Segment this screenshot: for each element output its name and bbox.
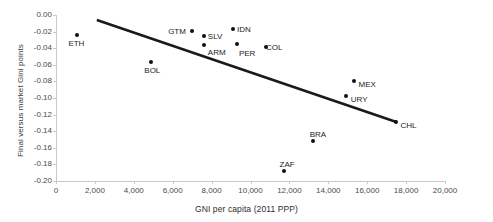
y-tick-label: -0.18 — [16, 160, 52, 168]
data-point-label: PER — [239, 49, 255, 58]
data-point-label: ETH — [68, 39, 84, 48]
data-point — [235, 42, 239, 46]
y-tick-label: -0.10 — [16, 94, 52, 102]
y-tick-label: -0.08 — [16, 77, 52, 85]
data-point-label: ARM — [208, 48, 226, 57]
x-axis-tick-labels: 02,0004,0006,0008,00010,00012,00014,0001… — [0, 182, 493, 202]
data-point-label: CHL — [400, 121, 416, 130]
y-tick-label: -0.16 — [16, 144, 52, 152]
x-axis-label: GNI per capita (2011 PPP) — [0, 204, 493, 214]
data-point-label: GTM — [168, 27, 186, 36]
data-point-label: MEX — [359, 80, 376, 89]
data-point-label: URY — [351, 95, 368, 104]
data-point — [311, 139, 315, 143]
trend-line — [56, 15, 445, 181]
y-tick-label: -0.06 — [16, 61, 52, 69]
y-tick-label: -0.02 — [16, 28, 52, 36]
data-point-label: BOL — [144, 66, 160, 75]
data-point-label: SLV — [208, 32, 223, 41]
data-point-label: ZAF — [280, 160, 295, 169]
plot-area: ETHBOLGTMSLVARMIDNPERCOLMEXURYBRAZAFCHL — [56, 15, 445, 181]
y-tick-label: -0.14 — [16, 127, 52, 135]
x-tick-label: 20,000 — [415, 186, 475, 195]
data-point-label: BRA — [310, 130, 326, 139]
data-point — [190, 29, 194, 33]
y-tick-label: -0.12 — [16, 111, 52, 119]
scatter-chart: Final versus market Gini points 0.00-0.0… — [0, 0, 493, 222]
data-point-label: COL — [266, 43, 282, 52]
y-tick-label: -0.04 — [16, 44, 52, 52]
data-point — [202, 34, 206, 38]
data-point — [282, 169, 286, 173]
data-point — [202, 43, 206, 47]
data-point-label: IDN — [237, 25, 251, 34]
y-tick-label: 0.00 — [16, 11, 52, 19]
